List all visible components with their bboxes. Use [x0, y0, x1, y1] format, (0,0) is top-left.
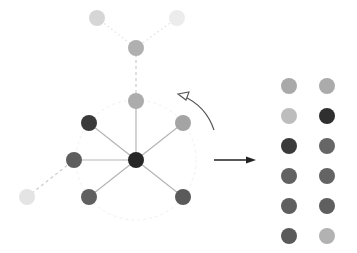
node-top-right [169, 10, 185, 26]
edge-lower-left-center [89, 160, 136, 197]
grid-node-r1-c1 [281, 78, 297, 94]
grid-node-r6-c2 [319, 228, 335, 244]
transform-arrow-icon [214, 157, 256, 164]
grid-node-r4-c1 [281, 168, 297, 184]
grid-node-r1-c2 [319, 78, 335, 94]
grid-node-r5-c2 [319, 198, 335, 214]
output-node-grid [281, 78, 335, 244]
node-lower-left [81, 189, 97, 205]
node-upper-left [81, 115, 97, 131]
graph-edges [27, 18, 183, 197]
node-lower-right [175, 189, 191, 205]
node-far-left [19, 189, 35, 205]
graph-to-sequence-diagram [0, 0, 357, 253]
grid-node-r5-c1 [281, 198, 297, 214]
node-upper-mid [128, 40, 144, 56]
edge-lower-right-center [136, 160, 183, 197]
arrow-head-icon [246, 157, 256, 164]
diagram-canvas [0, 0, 357, 253]
edge-far-left-left [27, 160, 74, 197]
node-top-left [89, 10, 105, 26]
edge-upper-left-center [89, 123, 136, 160]
grid-node-r2-c2 [319, 108, 335, 124]
node-hub-neighbor-top [128, 93, 144, 109]
grid-node-r3-c2 [319, 138, 335, 154]
grid-node-r3-c1 [281, 138, 297, 154]
grid-node-r2-c1 [281, 108, 297, 124]
node-left [66, 152, 82, 168]
node-center [128, 152, 144, 168]
grid-node-r4-c2 [319, 168, 335, 184]
node-upper-right [175, 115, 191, 131]
edge-upper-right-center [136, 123, 183, 160]
grid-node-r6-c1 [281, 228, 297, 244]
